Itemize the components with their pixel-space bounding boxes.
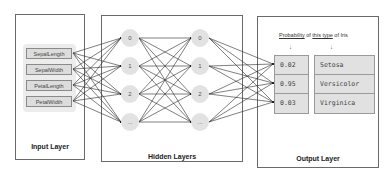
hidden-node-c1-1: 1 xyxy=(121,57,139,75)
output-probability-virginica: 0.03 xyxy=(274,93,309,114)
hidden-node-c2-1: 1 xyxy=(191,57,209,75)
hidden-node-c2-ellipsis: ... xyxy=(191,113,209,131)
hidden-node-c1-ellipsis: ... xyxy=(121,113,139,131)
output-class-virginica: Virginica xyxy=(314,93,375,114)
caption-of-iris: of Iris xyxy=(333,32,348,38)
output-class-versicolor: Versicolor xyxy=(314,74,375,94)
caption-this-type: this type xyxy=(312,32,332,38)
arrow-down-icon-probability: ↓ xyxy=(289,44,292,50)
hidden-node-c1-0: 0 xyxy=(121,29,139,47)
caption-probability: Probability xyxy=(279,32,305,38)
hidden-node-c2-0: 0 xyxy=(191,29,209,47)
hidden-node-c2-2: 2 xyxy=(191,85,209,103)
hidden-node-c1-2: 2 xyxy=(121,85,139,103)
output-class-setosa: Setosa xyxy=(314,55,375,75)
output-probability-versicolor: 0.95 xyxy=(274,74,309,94)
output-caption: Probability of this type of Iris xyxy=(279,32,348,38)
arrow-down-icon-class: ↓ xyxy=(330,44,333,50)
output-probability-setosa: 0.02 xyxy=(274,55,309,75)
